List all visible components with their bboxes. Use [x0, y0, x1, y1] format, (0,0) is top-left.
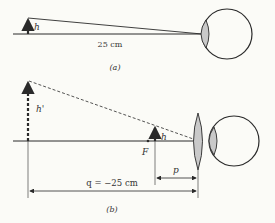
distance-label-a: 25 cm: [98, 40, 123, 49]
eye-icon: [201, 9, 252, 59]
object-label-b: h: [161, 132, 167, 142]
image-label: h': [36, 104, 44, 114]
eye-icon: [209, 116, 259, 166]
caption-a: (a): [109, 63, 120, 72]
q-label: q = −25 cm: [86, 178, 137, 188]
p-label: p: [173, 165, 179, 175]
magnifier-diagram: h 25 cm (a) h' h F p q = −25 cm (: [0, 0, 275, 223]
focal-label: F: [141, 147, 149, 157]
figure-b: h' h F p q = −25 cm (b): [13, 81, 259, 214]
virtual-ray: [29, 81, 199, 141]
lens-icon: [194, 113, 203, 170]
ray-a: [28, 18, 202, 34]
focal-point: [147, 140, 150, 143]
figure-a: h 25 cm (a): [13, 9, 252, 72]
caption-b: (b): [106, 205, 117, 214]
object-label-a: h: [34, 22, 40, 32]
